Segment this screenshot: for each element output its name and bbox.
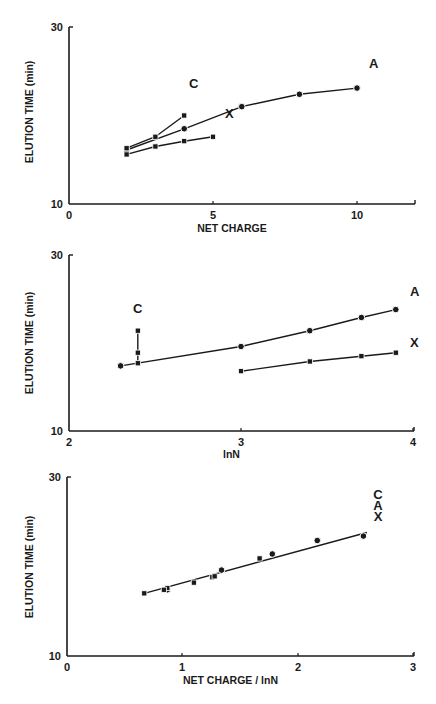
fit-line <box>144 532 367 593</box>
data-point-square <box>191 580 196 585</box>
data-point-square <box>212 574 217 579</box>
y-tick-label-max: 30 <box>49 471 61 483</box>
x-tick-label: 2 <box>295 661 301 673</box>
data-point-square <box>161 587 166 592</box>
chart-axes: 30100123NET CHARGE / lnNELUTION TIME (mi… <box>23 471 416 686</box>
data-point-circle <box>314 537 321 544</box>
y-axis-label: ELUTION TIME (min) <box>23 516 35 619</box>
data-point-circle <box>218 567 225 574</box>
series-label-X: X <box>374 509 383 524</box>
series-label-C: C <box>373 487 383 502</box>
data-point-circle <box>269 551 276 558</box>
y-tick-label-min: 10 <box>49 650 61 662</box>
data-point-circle <box>360 533 367 540</box>
data-point-square <box>257 556 262 561</box>
x-tick-label: 3 <box>410 661 416 673</box>
x-axis-label: NET CHARGE / lnN <box>183 674 278 686</box>
x-tick-label: 1 <box>179 661 185 673</box>
chart-net-charge-over-lnN: 30100123NET CHARGE / lnNELUTION TIME (mi… <box>0 0 436 704</box>
data-point-square <box>142 591 147 596</box>
series-C <box>165 556 262 591</box>
x-tick-label: 0 <box>64 661 70 673</box>
chart-panel-net-charge-over-lnN: 30100123NET CHARGE / lnNELUTION TIME (mi… <box>0 0 436 704</box>
